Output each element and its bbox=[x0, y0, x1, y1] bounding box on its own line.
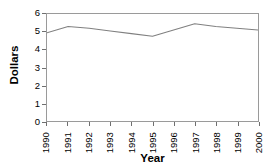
x-tick-mark bbox=[216, 122, 217, 126]
y-tick-label: 2 bbox=[24, 81, 40, 91]
plot-area bbox=[46, 13, 259, 122]
x-tick-mark bbox=[238, 122, 239, 126]
x-tick-mark bbox=[110, 122, 111, 126]
y-tick-label: 1 bbox=[24, 99, 40, 109]
x-tick-label-text: 1991 bbox=[63, 132, 73, 153]
x-tick-label-text: 2000 bbox=[254, 132, 264, 153]
line-chart: Dollars 0123456 199019911992199319941995… bbox=[0, 0, 275, 168]
x-tick-label-text: 1999 bbox=[233, 132, 243, 153]
x-tick-label-text: 1997 bbox=[190, 132, 200, 153]
x-axis-title: Year bbox=[46, 152, 259, 164]
y-tick-label: 4 bbox=[24, 45, 40, 55]
y-tick-label: 5 bbox=[24, 26, 40, 36]
x-tick-mark bbox=[153, 122, 154, 126]
y-axis-tick-labels: 0123456 bbox=[24, 0, 40, 168]
x-tick-label-text: 1998 bbox=[212, 132, 222, 153]
x-tick-label-text: 1995 bbox=[148, 132, 158, 153]
x-tick-label-text: 1992 bbox=[84, 132, 94, 153]
x-tick-mark bbox=[195, 122, 196, 126]
y-tick-label: 6 bbox=[24, 8, 40, 18]
x-tick-label-text: 1990 bbox=[41, 132, 51, 153]
plot-svg bbox=[47, 14, 258, 121]
x-tick-mark bbox=[259, 122, 260, 126]
x-tick-label-text: 1993 bbox=[105, 132, 115, 153]
x-tick-mark bbox=[67, 122, 68, 126]
x-tick-label-text: 1994 bbox=[126, 132, 136, 153]
x-tick-mark bbox=[131, 122, 132, 126]
x-tick-mark bbox=[89, 122, 90, 126]
x-tick-label-text: 1996 bbox=[169, 132, 179, 153]
data-series-line bbox=[47, 24, 258, 36]
y-axis-title: Dollars bbox=[0, 0, 26, 130]
y-axis-title-text: Dollars bbox=[7, 46, 19, 85]
y-tick-label: 0 bbox=[24, 117, 40, 127]
x-tick-mark bbox=[46, 122, 47, 126]
y-tick-label: 3 bbox=[24, 63, 40, 73]
x-tick-mark bbox=[174, 122, 175, 126]
